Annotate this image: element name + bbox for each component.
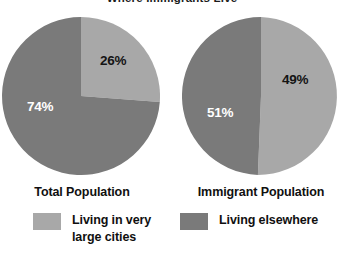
pie-label-immigrant-large-cities: 49% [282, 72, 308, 87]
legend-swatch-elsewhere [180, 213, 208, 230]
legend-item-large-cities[interactable]: Living in very large cities [33, 212, 176, 246]
pie-slice-large-cities[interactable] [258, 17, 337, 175]
figure-title-clipped: Where Immigrants Live [0, 0, 344, 7]
pie-svg-total-population [2, 17, 160, 175]
pie-label-total-elsewhere: 74% [27, 99, 53, 114]
chart-caption-total-population: Total Population [0, 185, 164, 199]
pie-label-immigrant-elsewhere: 51% [207, 105, 233, 120]
pie-chart-figure: Where Immigrants Live 26% 74% Total Popu… [0, 0, 344, 258]
chart-legend: Living in very large cities Living elsew… [0, 211, 344, 258]
legend-item-elsewhere[interactable]: Living elsewhere [180, 212, 318, 230]
pie-slices-total-population [2, 17, 160, 175]
chart-caption-immigrant-population: Immigrant Population [178, 185, 344, 199]
legend-label-elsewhere: Living elsewhere [219, 212, 318, 229]
pie-label-total-large-cities: 26% [100, 53, 126, 68]
legend-swatch-large-cities [33, 213, 61, 230]
pie-chart-immigrant-population [182, 17, 340, 175]
pie-chart-total-population [2, 17, 160, 175]
pie-slice-elsewhere[interactable] [182, 17, 261, 175]
pie-svg-immigrant-population [182, 17, 340, 175]
legend-label-large-cities: Living in very large cities [72, 212, 176, 246]
pie-slices-immigrant-population [182, 17, 337, 175]
